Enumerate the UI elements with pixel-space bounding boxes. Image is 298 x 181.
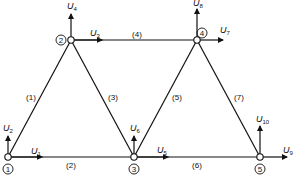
member-labels: (1) (2) (3) (4) (5) (6) (7) [26, 30, 244, 170]
node-2-hinge-icon [68, 37, 74, 43]
dof-label-u9: U9 [283, 145, 294, 156]
node-3-hinge-icon [131, 154, 137, 160]
member-7 [197, 40, 260, 157]
member-3-label: (3) [108, 93, 118, 102]
member-2-label: (2) [66, 161, 76, 170]
truss-svg: 1 2 3 4 5 (1) (2) (3) (4) (5) (6) (7) U2… [0, 0, 298, 181]
dof-label-u4: U4 [67, 1, 78, 12]
truss-diagram: 1 2 3 4 5 (1) (2) (3) (4) (5) (6) (7) U2… [0, 0, 298, 181]
dof-label-u1: U1 [31, 146, 42, 157]
node-2-label: 2 [59, 36, 64, 45]
dof-label-u10: U10 [256, 114, 270, 125]
dof-label-u8: U8 [193, 0, 204, 9]
member-4-label: (4) [132, 30, 142, 39]
node-5-label: 5 [258, 165, 263, 174]
dof-labels: U2 U1 U4 U3 U6 U5 U8 U7 U10 U9 [3, 0, 294, 157]
dof-label-u2: U2 [3, 123, 14, 134]
dof-label-u6: U6 [130, 123, 141, 134]
member-5 [134, 40, 197, 157]
member-1 [8, 40, 71, 157]
member-3 [71, 40, 134, 157]
node-1-label: 1 [6, 165, 11, 174]
node-1-hinge-icon [5, 154, 11, 160]
dof-arrows [8, 9, 287, 157]
member-6-label: (6) [192, 161, 202, 170]
dof-label-u5: U5 [157, 145, 168, 156]
node-3-label: 3 [132, 165, 137, 174]
node-5-hinge-icon [257, 154, 263, 160]
node-4-label: 4 [200, 29, 205, 38]
dof-label-u7: U7 [220, 25, 231, 36]
dof-label-u3: U3 [90, 28, 101, 39]
member-5-label: (5) [172, 93, 182, 102]
member-7-label: (7) [234, 93, 244, 102]
member-1-label: (1) [26, 93, 36, 102]
